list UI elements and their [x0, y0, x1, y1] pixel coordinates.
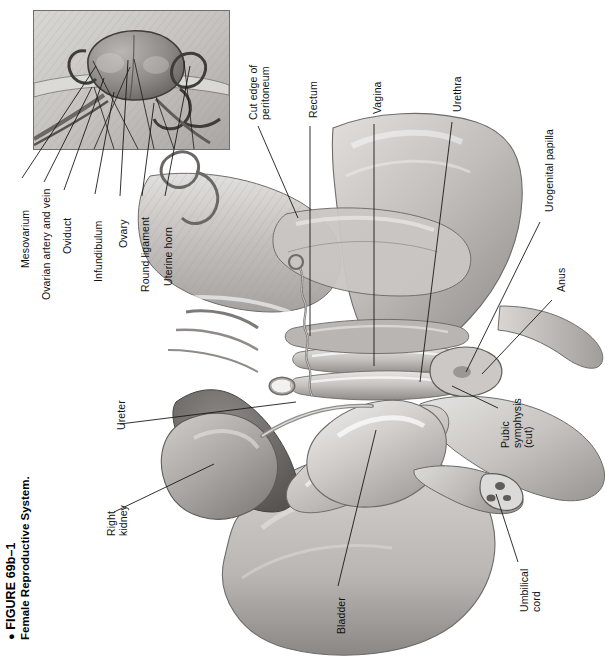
label-bladder: Bladder: [336, 597, 348, 634]
label-cut-edge-peritoneum: Cut edge ofperitoneum: [248, 65, 271, 120]
label-text: Oviduct: [62, 218, 74, 254]
figure-caption: ● FIGURE 69b–1 Female Reproductive Syste…: [4, 400, 44, 640]
leader-ureter: [120, 402, 296, 424]
label-text: Infundibulum: [93, 221, 105, 282]
label-ureter: Ureter: [116, 400, 128, 430]
caption-bullet-icon: ●: [5, 633, 17, 640]
label-text: Pubic: [500, 398, 512, 448]
label-text: Round ligament: [140, 217, 152, 292]
leader-uterine-horn: [165, 66, 190, 196]
leader-ovary: [120, 60, 128, 196]
label-urogenital-papilla: Urogenital papilla: [544, 129, 556, 212]
label-text: Vagina: [372, 81, 384, 114]
leader-pubic-symphysis-cut: [452, 386, 498, 408]
label-text: Rectum: [308, 81, 320, 118]
label-infundibulum: Infundibulum: [93, 221, 105, 282]
label-text: (cut): [523, 398, 535, 448]
label-anus: Anus: [556, 268, 568, 292]
label-text: Bladder: [336, 597, 348, 634]
label-rectum: Rectum: [308, 81, 320, 118]
label-uterine-horn: Uterine horn: [163, 227, 175, 286]
label-text: Right: [106, 505, 118, 536]
label-text: Urethra: [452, 76, 464, 112]
label-ovary: Ovary: [118, 219, 130, 248]
label-text: Ovary: [118, 219, 130, 248]
label-ovarian-artery-vein: Ovarian artery and vein: [41, 189, 53, 300]
label-text: Uterine horn: [163, 227, 175, 286]
leader-urogenital-papilla: [466, 222, 540, 372]
label-text: Mesovarium: [20, 210, 32, 268]
leader-right-kidney: [114, 464, 214, 512]
label-right-kidney: Rightkidney: [106, 505, 129, 536]
figure-page: MesovariumOvarian artery and veinOviduct…: [0, 0, 609, 657]
leader-umbilical-cord: [496, 494, 518, 562]
figure-number: FIGURE 69b–1: [4, 542, 18, 629]
leader-urethra: [420, 122, 452, 382]
leader-infundibulum: [95, 92, 114, 194]
figure-number-line: ● FIGURE 69b–1: [4, 400, 18, 640]
label-mesovarium: Mesovarium: [20, 210, 32, 268]
leader-round-ligament: [142, 103, 154, 196]
leader-cut-edge-peritoneum: [258, 126, 298, 218]
label-text: Anus: [556, 268, 568, 292]
label-text: peritoneum: [260, 65, 272, 120]
label-text: Urogenital papilla: [544, 129, 556, 212]
label-oviduct: Oviduct: [62, 218, 74, 254]
leader-anus: [482, 300, 552, 374]
label-text: kidney: [118, 505, 130, 536]
leader-oviduct: [64, 78, 104, 190]
leader-mesovarium: [22, 66, 96, 178]
label-text: cord: [531, 569, 543, 613]
leader-bladder: [338, 430, 376, 586]
label-pubic-symphysis-cut: Pubicsymphysis(cut): [500, 398, 535, 448]
label-round-ligament: Round ligament: [140, 217, 152, 292]
leader-lines: [0, 0, 609, 657]
label-text: Cut edge of: [248, 65, 260, 120]
label-text: Ureter: [116, 400, 128, 430]
label-vagina: Vagina: [372, 81, 384, 114]
label-umbilical-cord: Umbilicalcord: [519, 569, 542, 613]
label-text: Ovarian artery and vein: [41, 189, 53, 300]
label-text: Umbilical: [519, 569, 531, 613]
label-urethra: Urethra: [452, 76, 464, 112]
figure-title: Female Reproductive System.: [18, 400, 32, 640]
